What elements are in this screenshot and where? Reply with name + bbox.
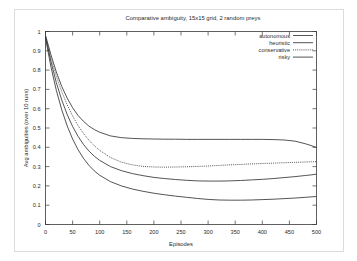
legend-label-autonomous: autonomous bbox=[259, 33, 290, 39]
y-tick-label: 0.5 bbox=[33, 125, 41, 131]
line-chart: Comparative ambiguity, 15x15 grid, 2 ran… bbox=[0, 0, 357, 261]
y-axis-title: Avg ambiguities (over 10 runs) bbox=[23, 89, 29, 168]
y-tick-label: 0.7 bbox=[33, 86, 41, 92]
series-line-risky bbox=[46, 38, 317, 200]
plot-area-border bbox=[46, 32, 317, 225]
y-tick-label: 0 bbox=[37, 222, 40, 228]
x-tick-label: 50 bbox=[69, 229, 75, 235]
x-tick-label: 400 bbox=[258, 229, 267, 235]
x-tick-label: 250 bbox=[176, 229, 185, 235]
x-tick-label: 150 bbox=[122, 229, 131, 235]
y-tick-label: 0.1 bbox=[33, 202, 41, 208]
legend-label-conservative: conservative bbox=[259, 47, 290, 53]
x-tick-label: 500 bbox=[312, 229, 321, 235]
legend-label-risky: risky bbox=[279, 54, 291, 60]
y-tick-label: 0.6 bbox=[33, 106, 41, 112]
y-tick-label: 0.3 bbox=[33, 164, 41, 170]
y-tick-label: 0.9 bbox=[33, 48, 41, 54]
x-tick-label: 350 bbox=[231, 229, 240, 235]
y-axis-tick-labels: 00.10.20.30.40.50.60.70.80.91 bbox=[33, 29, 41, 228]
y-tick-label: 1 bbox=[37, 29, 40, 35]
x-axis-title: Episodes bbox=[169, 241, 193, 247]
x-tick-label: 300 bbox=[203, 229, 212, 235]
data-series-group bbox=[46, 35, 317, 200]
legend-label-heuristic: heuristic bbox=[269, 40, 290, 46]
x-tick-label: 100 bbox=[95, 229, 104, 235]
y-tick-label: 0.2 bbox=[33, 183, 41, 189]
x-tick-label: 200 bbox=[149, 229, 158, 235]
y-axis-ticks bbox=[46, 32, 317, 225]
x-axis-ticks bbox=[46, 32, 317, 225]
chart-page: Comparative ambiguity, 15x15 grid, 2 ran… bbox=[0, 0, 357, 261]
series-line-heuristic bbox=[46, 36, 317, 181]
x-tick-label: 0 bbox=[44, 229, 47, 235]
chart-legend: autonomousheuristicconservativerisky bbox=[259, 33, 313, 61]
x-tick-label: 450 bbox=[285, 229, 294, 235]
y-tick-label: 0.8 bbox=[33, 67, 41, 73]
chart-title: Comparative ambiguity, 15x15 grid, 2 ran… bbox=[126, 15, 261, 21]
x-axis-tick-labels: 050100150200250300350400450500 bbox=[44, 229, 321, 235]
y-tick-label: 0.4 bbox=[33, 144, 41, 150]
